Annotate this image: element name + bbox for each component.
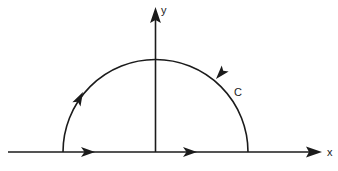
contour-label-c: C — [234, 86, 242, 98]
x-axis-label: x — [327, 146, 333, 158]
figure-canvas: x y C — [0, 0, 338, 171]
y-axis-group: y — [150, 4, 167, 152]
contour-diagram: x y C — [0, 0, 338, 171]
x-axis-group: x — [8, 146, 333, 158]
arc-direction-arrow-right — [213, 65, 229, 82]
arc-arrowhead-right-icon — [213, 65, 229, 82]
y-axis-label: y — [161, 4, 167, 16]
